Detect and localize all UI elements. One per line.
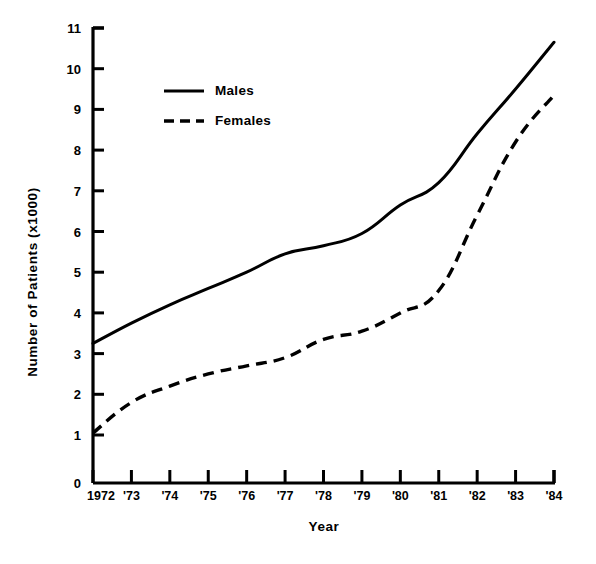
x-tick-label: '80 [392,489,409,503]
y-axis-title: Number of Patients (x1000) [12,0,52,564]
series-line-females [93,95,554,433]
legend-item-females: Females [163,113,271,128]
y-axis-origin-label: 0 [55,476,81,491]
line-chart-figure: 1234567891011 0 1972'73'74'75'76'77'78'7… [0,0,596,564]
x-tick-label: '78 [315,489,332,503]
legend-label-females: Females [215,113,271,128]
x-tick-label: '74 [161,489,178,503]
x-tick-label: '76 [238,489,255,503]
x-tick-label: '82 [469,489,486,503]
legend-swatch-solid [163,85,205,97]
y-tick-label: 5 [55,265,81,280]
x-tick-label: '81 [430,489,447,503]
x-tick-label: '75 [200,489,217,503]
y-tick-label: 6 [55,224,81,239]
x-tick-label: '79 [353,489,370,503]
y-tick-label: 4 [55,305,81,320]
x-tick-label: 1972 [87,489,115,503]
y-tick-label: 11 [55,21,81,36]
legend-label-males: Males [215,83,254,98]
y-tick-label: 9 [55,102,81,117]
y-tick-label: 8 [55,143,81,158]
y-tick-label: 3 [55,346,81,361]
plot-canvas [0,0,596,564]
x-tick-label: '73 [123,489,140,503]
y-tick-label: 2 [55,387,81,402]
x-axis-title: Year [93,519,555,534]
y-tick-label: 10 [55,61,81,76]
x-axis-ticks [93,470,554,483]
y-tick-label: 7 [55,183,81,198]
x-tick-label: '84 [546,489,563,503]
y-tick-label: 1 [55,428,81,443]
legend-swatch-dashed [163,115,205,127]
legend-item-males: Males [163,83,254,98]
x-tick-label: '83 [507,489,524,503]
x-tick-label: '77 [277,489,294,503]
y-axis-ticks [93,28,104,435]
